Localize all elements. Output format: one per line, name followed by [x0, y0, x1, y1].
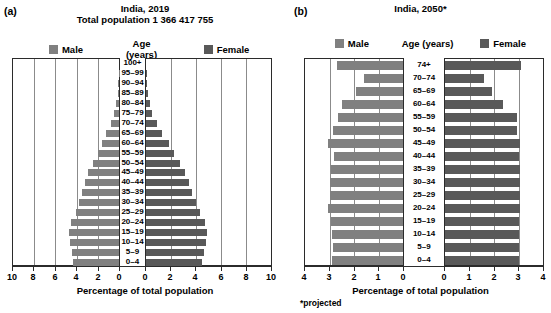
- x-axis-tick-label: 8: [236, 272, 256, 282]
- age-label-column: 100+95–9990–9485–8980–8475–7970–7465–696…: [120, 58, 145, 266]
- x-axis-tick-label: 2: [484, 272, 504, 282]
- age-label: 60–64: [404, 100, 444, 108]
- bar-female: [146, 219, 205, 226]
- figure-root: (a)India, 2019Total population 1 366 417…: [0, 0, 551, 313]
- panel-title-block: India, 2050*: [290, 3, 551, 14]
- bar-male: [332, 230, 403, 239]
- x-axis-tick-label: 1: [459, 272, 479, 282]
- bar-female: [445, 243, 519, 252]
- bar-female: [146, 169, 185, 176]
- bar-female: [445, 230, 519, 239]
- x-axis-tick: [271, 267, 272, 271]
- bar-female: [146, 150, 174, 157]
- x-axis-tick: [354, 267, 355, 271]
- bar-female: [146, 259, 202, 266]
- x-axis-tick-label: 1: [368, 272, 388, 282]
- x-axis-tick: [12, 267, 13, 271]
- plot-area-female: [444, 58, 544, 266]
- bar-male: [76, 209, 119, 216]
- bar-female: [445, 217, 519, 226]
- age-label: 35–39: [404, 165, 444, 173]
- bar-male: [332, 256, 403, 265]
- x-axis-tick: [55, 267, 56, 271]
- bar-female: [445, 113, 517, 122]
- x-axis-tick: [403, 267, 404, 271]
- age-label: 0–4: [120, 258, 145, 266]
- bar-male: [331, 217, 403, 226]
- gridline: [55, 59, 56, 265]
- panel-title: India, 2050*: [290, 3, 551, 14]
- x-axis-tick-label: 4: [533, 272, 551, 282]
- age-label: 55–59: [120, 149, 145, 157]
- gridline: [34, 59, 35, 265]
- x-axis-tick: [304, 267, 305, 271]
- bar-male: [82, 189, 119, 196]
- age-label: 10–14: [120, 238, 145, 246]
- age-label: 50–54: [120, 159, 145, 167]
- x-axis-tick: [119, 267, 120, 271]
- legend-axis-label-age: Age (years): [400, 38, 456, 49]
- bar-male: [72, 249, 119, 256]
- bar-female: [146, 239, 206, 246]
- bar-female: [146, 90, 148, 97]
- bar-female: [445, 204, 520, 213]
- plot-area-female: [145, 58, 272, 266]
- x-axis-title: Percentage of total population: [290, 285, 551, 296]
- plot-area-male: [12, 58, 120, 266]
- bar-male: [111, 120, 119, 127]
- bar-female: [146, 140, 169, 147]
- bar-male: [333, 126, 403, 135]
- gridline: [330, 59, 331, 265]
- bar-male: [85, 179, 119, 186]
- age-label: 10–14: [404, 230, 444, 238]
- plot-area-male: [304, 58, 404, 266]
- gridline: [519, 59, 520, 265]
- bar-male: [331, 165, 403, 174]
- bar-female: [445, 126, 517, 135]
- x-axis-tick-label: 10: [261, 272, 281, 282]
- panel-title: India, 2019: [0, 3, 290, 14]
- bar-male: [70, 239, 119, 246]
- legend-item-male: Male: [304, 38, 400, 49]
- bar-male: [98, 150, 119, 157]
- legend-label-female: Female: [217, 44, 250, 55]
- footnote: *projected: [300, 298, 342, 308]
- bar-male: [356, 87, 403, 96]
- bar-male: [330, 178, 404, 187]
- age-label: 35–39: [120, 188, 145, 196]
- x-axis-tick: [518, 267, 519, 271]
- x-axis-tick: [195, 267, 196, 271]
- bar-male: [93, 160, 120, 167]
- age-label: 60–64: [120, 139, 145, 147]
- bar-male: [102, 140, 119, 147]
- bar-female: [445, 165, 520, 174]
- panel-title-block: India, 2019Total population 1 366 417 75…: [0, 3, 290, 25]
- x-axis-tick-label: 8: [23, 272, 43, 282]
- x-axis-tick-label: 0: [135, 272, 155, 282]
- age-label: 20–24: [404, 204, 444, 212]
- x-axis-tick-label: 4: [185, 272, 205, 282]
- age-label: 75–79: [120, 109, 145, 117]
- bar-female: [445, 191, 520, 200]
- bar-female: [146, 199, 196, 206]
- bar-male: [338, 113, 403, 122]
- bar-male: [342, 100, 403, 109]
- panel-subtitle: Total population 1 366 417 755: [0, 14, 290, 25]
- x-axis-tick: [221, 267, 222, 271]
- age-label: 5–9: [120, 248, 145, 256]
- bar-male: [328, 204, 403, 213]
- bar-male: [328, 139, 403, 148]
- age-label: 85–89: [120, 89, 145, 97]
- bar-male: [116, 100, 119, 107]
- legend: MaleAge (years)Female: [290, 38, 551, 49]
- x-axis-tick-label: 6: [211, 272, 231, 282]
- bar-female: [445, 87, 492, 96]
- x-axis-tick: [76, 267, 77, 271]
- x-axis-tick: [329, 267, 330, 271]
- x-axis-tick-label: 6: [45, 272, 65, 282]
- age-label: 50–54: [404, 126, 444, 134]
- x-axis-tick: [98, 267, 99, 271]
- age-label: 15–19: [404, 217, 444, 225]
- legend-swatch-female-icon: [480, 39, 489, 48]
- bar-male: [334, 152, 403, 161]
